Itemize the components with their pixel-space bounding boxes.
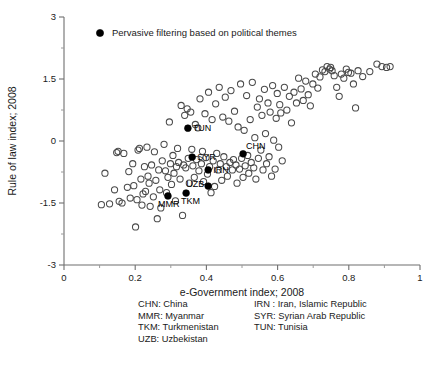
- data-point-open: [273, 115, 279, 121]
- data-point-open: [270, 83, 276, 89]
- data-point-open: [219, 177, 225, 183]
- data-point-highlighted-irn: [205, 167, 212, 174]
- data-point-label-mmr: MMR: [158, 199, 180, 209]
- data-point-open: [98, 202, 104, 208]
- data-point-highlighted-tun: [184, 125, 191, 132]
- x-tick-label: 0.8: [342, 272, 355, 283]
- data-point-open: [272, 166, 278, 172]
- data-point-open: [178, 102, 184, 108]
- data-point-open: [251, 165, 257, 171]
- data-point-open: [241, 127, 247, 133]
- data-point-open: [166, 119, 172, 125]
- data-point-open: [151, 149, 157, 155]
- data-point-open: [240, 174, 246, 180]
- data-point-open: [247, 116, 253, 122]
- country-key-entry: TKM: Turkmenistan: [138, 322, 246, 334]
- data-point-open: [246, 170, 252, 176]
- data-point-label-chn: CHN: [246, 141, 266, 151]
- data-point-open: [260, 167, 266, 173]
- data-point-open: [288, 120, 294, 126]
- data-point-open: [254, 104, 260, 110]
- data-point-open: [256, 96, 262, 102]
- y-tick-label: 0: [51, 135, 56, 146]
- data-point-open: [305, 92, 311, 98]
- data-point-open: [205, 89, 211, 95]
- y-axis-title: Rule of law index; 2008: [6, 86, 18, 195]
- data-point-open: [266, 154, 272, 160]
- chart-legend: Pervasive filtering based on political t…: [96, 27, 297, 38]
- data-point-label-uzb: UZB: [186, 179, 204, 189]
- data-point-open: [263, 161, 269, 167]
- data-point-open: [303, 78, 309, 84]
- data-point-open: [360, 73, 366, 79]
- legend-label: Pervasive filtering based on political t…: [112, 27, 297, 38]
- data-point-open: [259, 112, 265, 118]
- data-point-open: [228, 87, 234, 93]
- data-point-label-tkm: TKM: [181, 196, 200, 206]
- data-point-open: [278, 110, 284, 116]
- data-point-open: [242, 163, 248, 169]
- data-point-open: [197, 96, 203, 102]
- data-point-open: [352, 105, 358, 111]
- data-point-open: [334, 84, 340, 90]
- country-key-entry: UZB: Uzbekistan: [138, 334, 246, 346]
- data-point-open: [296, 75, 302, 81]
- data-point-open: [233, 162, 239, 168]
- data-point-open: [150, 194, 156, 200]
- data-point-open: [121, 150, 127, 156]
- data-point-open: [202, 111, 208, 117]
- x-tick-label: 0: [61, 272, 66, 283]
- country-key-entry: CHN: China: [138, 299, 246, 311]
- data-point-open: [102, 170, 108, 176]
- data-point-open: [159, 158, 165, 164]
- x-axis-title: e-Government index; 2008: [180, 286, 304, 298]
- data-point-open: [196, 168, 202, 174]
- data-point-open: [220, 114, 226, 120]
- data-point-open: [126, 168, 132, 174]
- data-point-open: [249, 79, 255, 85]
- country-key-entry: TUN: Tunisia: [254, 322, 428, 334]
- data-point-open: [174, 145, 180, 151]
- data-point-open: [222, 94, 228, 100]
- data-point-open: [157, 187, 163, 193]
- data-point-open: [271, 137, 277, 143]
- data-point-open: [182, 112, 188, 118]
- data-point-open: [111, 187, 117, 193]
- data-point-open: [253, 176, 259, 182]
- data-point-open: [156, 167, 162, 173]
- data-point-open: [274, 90, 280, 96]
- data-point-open: [189, 146, 195, 152]
- data-point-open: [171, 170, 177, 176]
- data-point-open: [162, 168, 168, 174]
- data-point-open: [367, 68, 373, 74]
- data-point-open: [355, 68, 361, 74]
- data-point-open: [168, 181, 174, 187]
- data-point-open: [387, 64, 393, 70]
- data-point-open: [231, 108, 237, 114]
- data-point-open: [244, 92, 250, 98]
- x-tick-label: 0.4: [200, 272, 213, 283]
- data-point-open: [277, 102, 283, 108]
- data-point-open: [165, 174, 171, 180]
- data-point-open: [139, 202, 145, 208]
- data-point-open: [317, 74, 323, 80]
- data-point-highlighted-chn: [240, 150, 247, 157]
- data-point-open: [307, 103, 313, 109]
- data-point-open: [312, 71, 318, 77]
- x-tick-label: 0.6: [271, 272, 284, 283]
- data-point-open: [265, 100, 271, 106]
- data-point-open: [268, 173, 274, 179]
- data-point-label-syr: SYR: [197, 152, 216, 162]
- country-code-key: CHN: ChinaIRN : Iran, Islamic RepublicMM…: [138, 299, 428, 345]
- data-point-open: [147, 203, 153, 209]
- data-point-open: [236, 166, 242, 172]
- data-point-open: [130, 161, 136, 167]
- data-point-open: [145, 173, 151, 179]
- data-point-open: [138, 176, 144, 182]
- country-key-entry: MMR: Myanmar: [138, 311, 246, 323]
- axes-group: 31.50-1.5-300.20.40.60.81: [40, 11, 423, 283]
- data-point-open: [144, 144, 150, 150]
- y-tick-label: -3: [48, 259, 56, 270]
- data-point-open: [167, 161, 173, 167]
- data-point-open: [350, 81, 356, 87]
